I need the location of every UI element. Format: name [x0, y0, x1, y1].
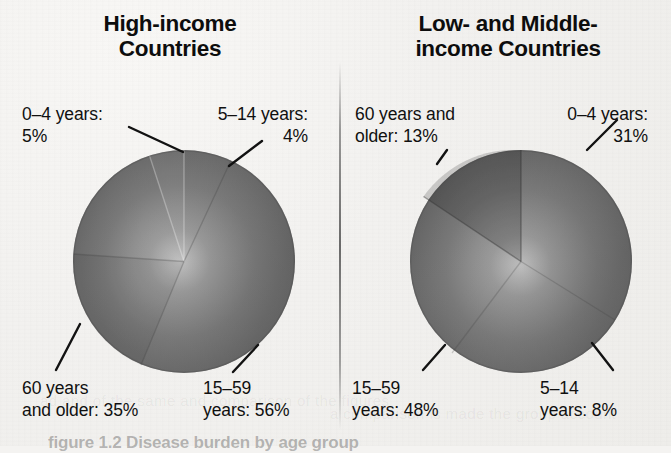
label-high-income-age-15-59: 15–59 years: 56% — [203, 378, 321, 421]
pie-chart-low-and-middle-income[interactable] — [410, 150, 632, 373]
panel-low-and-middle-income: Low- and Middle-income Countries — [340, 0, 671, 446]
chart-title-high-income: High-incomeCountries — [40, 11, 300, 61]
label-lmic-age-5-14: 5–14 years: 8% — [540, 378, 652, 421]
chart-title-line2: income Countries — [415, 36, 600, 61]
pie-svg-high-income — [73, 150, 295, 373]
label-lmic-age-60-plus: 60 years and older: 13% — [355, 104, 530, 147]
figure-caption: figure 1.2 Disease burden by age group — [48, 433, 359, 453]
label-high-income-age-5-14: 5–14 years: 4% — [168, 104, 308, 147]
chart-title-low-and-middle-income: Low- and Middle-income Countries — [372, 11, 644, 61]
label-lmic-age-15-59: 15–59 years: 48% — [352, 378, 482, 421]
chart-title-line1: Low- and Middle- — [419, 11, 598, 36]
panel-high-income: High-incomeCountries — [0, 0, 340, 446]
chart-title-line2: Countries — [119, 36, 221, 61]
label-high-income-age-60-plus: 60 years and older: 35% — [22, 378, 202, 421]
pie-chart-high-income[interactable] — [73, 150, 295, 373]
pie-svg-low-and-middle-income — [410, 150, 632, 373]
label-high-income-age-0-4: 0–4 years: 5% — [22, 104, 172, 147]
label-lmic-age-0-4: 0–4 years: 31% — [520, 104, 648, 147]
chart-title-line1: High-income — [104, 11, 237, 36]
